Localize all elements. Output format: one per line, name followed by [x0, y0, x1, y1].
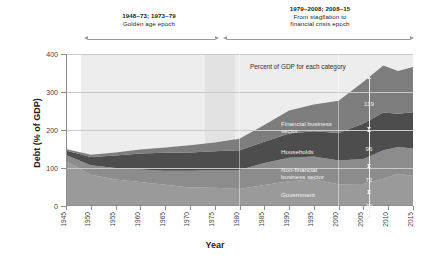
plot-area: 0100200300400 Percent of GDP for each ca…	[66, 54, 413, 206]
category-nonfinancial-line1: Non-financial	[281, 166, 317, 173]
x-tick-label: 2005	[356, 212, 363, 227]
year-separator-1980	[239, 54, 240, 206]
category-financial-line2: sector	[281, 127, 298, 134]
arrow-down-icon	[367, 216, 371, 219]
y-axis-line	[66, 54, 67, 206]
y-axis-title: Debt (% of GDP)	[32, 98, 42, 168]
x-tick	[363, 206, 364, 210]
x-tick-label: 2015	[406, 212, 413, 227]
x-tick	[116, 206, 117, 210]
x-tick	[289, 206, 290, 210]
arrow-up-icon	[367, 76, 371, 79]
epoch-label-golden-age: 1948–73; 1973–79 Golden age epoch	[94, 12, 204, 27]
x-tick	[66, 206, 67, 210]
epoch-crisis-line2: From stagflation to	[293, 13, 346, 20]
x-tick	[314, 206, 315, 210]
x-tick	[190, 206, 191, 210]
x-tick	[215, 206, 216, 210]
x-tick-label: 1990	[282, 212, 289, 227]
value-nonfinancial: 72	[366, 176, 373, 183]
category-households-line1: Households	[281, 148, 314, 155]
arrow-right-icon	[410, 36, 414, 40]
x-tick-label: 1960	[133, 212, 140, 227]
arrow-right-icon	[215, 36, 219, 40]
bracket-line	[227, 39, 410, 40]
x-tick-label: 2010	[381, 212, 388, 227]
x-tick-label: 1980	[233, 212, 240, 227]
x-tick	[165, 206, 166, 210]
category-label-households: Households	[281, 148, 314, 155]
x-tick	[240, 206, 241, 210]
epoch-bracket-golden-age	[84, 35, 219, 44]
x-tick-label: 1955	[109, 212, 116, 227]
bracket-line	[88, 39, 215, 40]
epoch-label-stagflation-crisis: 1979–2008; 2008–15 From stagflation to f…	[257, 5, 383, 28]
category-label-government: Government	[281, 191, 315, 198]
x-tick-label: 1975	[208, 212, 215, 227]
value-government: 79	[366, 202, 373, 209]
x-tick	[91, 206, 92, 210]
value-households: 96	[366, 145, 373, 152]
x-tick	[339, 206, 340, 210]
y-tick-label: 400	[46, 51, 58, 58]
x-axis-title: Year	[0, 240, 430, 250]
category-government-line1: Government	[281, 191, 315, 198]
arrow-up-icon	[367, 191, 371, 194]
y-tick-label: 200	[46, 127, 58, 134]
x-tick	[264, 206, 265, 210]
chart-figure: 1948–73; 1973–79 Golden age epoch 1979–2…	[0, 0, 430, 266]
category-label-nonfinancial: Non-financial business sector	[281, 166, 324, 181]
x-tick	[388, 206, 389, 210]
x-tick-label: 1945	[59, 212, 66, 227]
epoch-golden-age-line2: Golden age epoch	[123, 20, 175, 27]
arrow-up-icon	[367, 129, 371, 132]
year-separator-2000	[338, 54, 339, 206]
category-label-financial: Financial business sector	[281, 120, 332, 135]
y-tick-label: 300	[46, 89, 58, 96]
category-financial-line1: Financial business	[281, 120, 332, 127]
epoch-crisis-line1: 1979–2008; 2008–15	[290, 5, 351, 12]
x-tick-label: 1985	[257, 212, 264, 227]
x-tick-label: 1970	[183, 212, 190, 227]
epoch-bracket-stagflation-crisis	[223, 35, 414, 44]
x-tick-label: 1965	[158, 212, 165, 227]
category-nonfinancial-line2: business sector	[281, 173, 324, 180]
value-financial: 119	[364, 100, 374, 107]
y-tick-label: 0	[54, 203, 58, 210]
arrow-up-icon	[367, 165, 371, 168]
x-tick	[413, 206, 414, 210]
epoch-golden-age-line1: 1948–73; 1973–79	[122, 12, 176, 19]
x-tick	[140, 206, 141, 210]
x-tick-label: 2000	[332, 212, 339, 227]
epoch-crisis-line3: financial crisis epoch	[290, 20, 349, 27]
x-tick-label: 1995	[307, 212, 314, 227]
chart-note: Percent of GDP for each category	[250, 63, 346, 70]
x-tick-label: 1950	[84, 212, 91, 227]
y-tick-label: 100	[46, 165, 58, 172]
